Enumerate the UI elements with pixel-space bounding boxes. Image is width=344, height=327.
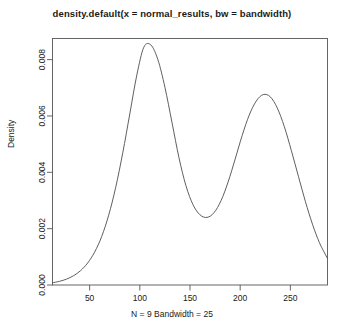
x-tick-label: 50 <box>85 293 95 303</box>
y-axis-ticks: 0.0000.0020.0040.0060.008 <box>37 49 53 296</box>
density-curve <box>53 43 328 282</box>
x-tick-label: 250 <box>283 293 297 303</box>
density-curve-group <box>53 43 328 282</box>
y-tick-label: 0.006 <box>37 105 47 127</box>
density-plot: density.default(x = normal_results, bw =… <box>0 0 344 327</box>
x-tick-label: 100 <box>133 293 147 303</box>
plot-canvas: 50100150200250 0.0000.0020.0040.0060.008 <box>0 0 344 327</box>
plot-frame <box>53 39 328 286</box>
x-tick-label: 200 <box>233 293 247 303</box>
chart-subtitle: N = 9 Bandwidth = 25 <box>0 309 344 319</box>
y-tick-label: 0.004 <box>37 161 47 183</box>
y-tick-label: 0.008 <box>37 49 47 71</box>
plot-box <box>53 39 328 286</box>
x-axis-ticks: 50100150200250 <box>85 285 298 303</box>
y-tick-label: 0.002 <box>37 218 47 240</box>
y-tick-label: 0.000 <box>37 274 47 296</box>
x-tick-label: 150 <box>183 293 197 303</box>
